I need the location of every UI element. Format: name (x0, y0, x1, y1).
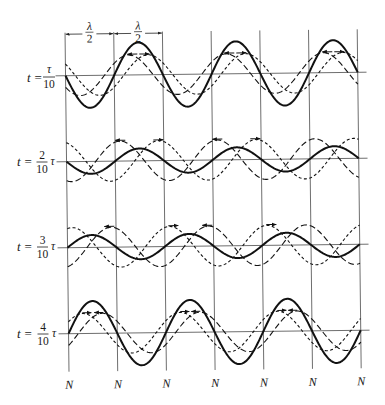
time-variable: t (17, 154, 21, 169)
fraction-denominator: 10 (43, 78, 55, 90)
row-label-1: t = τ 10 (27, 63, 55, 90)
node-label: N (113, 377, 123, 391)
dimension-denominator: 2 (135, 32, 141, 44)
time-suffix: τ (51, 240, 56, 252)
node-label: N (64, 378, 74, 392)
time-suffix: τ (51, 155, 56, 167)
node-labels: N N N N N N N (64, 374, 366, 392)
equals-sign: = (25, 239, 32, 254)
fraction-denominator: 10 (37, 335, 49, 347)
direction-arrows (79, 52, 347, 313)
node-label: N (210, 376, 220, 390)
equals-sign: = (35, 70, 42, 85)
dimension-label-2: λ 2 (134, 19, 142, 44)
node-line (357, 29, 361, 368)
time-variable: t (27, 70, 31, 85)
time-suffix: τ (52, 327, 57, 339)
equals-sign: = (25, 154, 32, 169)
fraction-denominator: 10 (36, 163, 48, 175)
row-label-4: t = 4 10 τ (17, 321, 57, 347)
grid-lines (55, 29, 370, 372)
dimension-numerator: λ (134, 19, 140, 31)
fraction-numerator: τ (47, 63, 52, 75)
fraction-numerator: 3 (40, 234, 46, 246)
row-label-2: t = 2 10 τ (17, 149, 56, 175)
row-label-3: t = 3 10 τ (17, 234, 56, 260)
node-label: N (259, 375, 269, 389)
fraction-denominator: 10 (37, 248, 49, 260)
dimension-label-1: λ 2 (85, 20, 93, 45)
figure-body: λ 2 λ 2 N N N N N N N (55, 17, 370, 392)
fraction-numerator: 4 (40, 321, 46, 333)
dimension-numerator: λ (86, 20, 92, 32)
time-variable: t (17, 326, 21, 341)
time-variable: t (17, 239, 21, 254)
equals-sign: = (25, 326, 32, 341)
fraction-numerator: 2 (39, 149, 45, 161)
node-label: N (308, 375, 318, 389)
dimension-denominator: 2 (87, 32, 93, 44)
node-label: N (356, 374, 366, 388)
diagram-canvas: t = τ 10 t = 2 10 τ t = 3 10 τ t = 4 (0, 0, 385, 405)
standing-wave-figure: t = τ 10 t = 2 10 τ t = 3 10 τ t = 4 (0, 0, 385, 405)
node-label: N (161, 376, 171, 390)
